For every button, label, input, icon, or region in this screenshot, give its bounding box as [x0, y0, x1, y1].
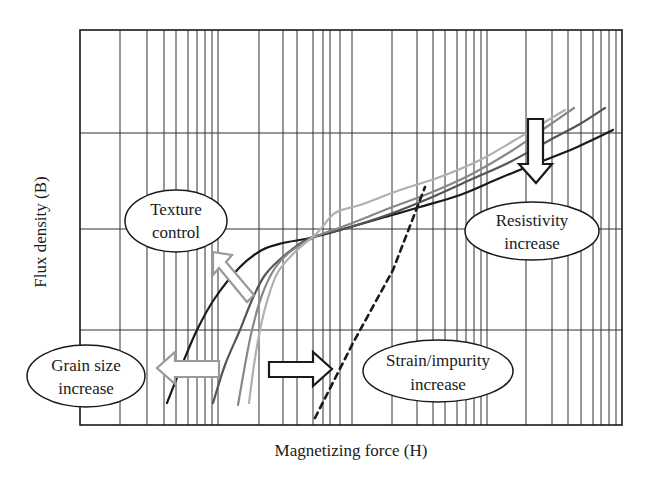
resistivity-label-line2: increase [504, 234, 560, 253]
grain-label-line1: Grain size [51, 356, 120, 375]
resistivity-label-line1: Resistivity [496, 211, 569, 230]
x-axis-label: Magnetizing force (H) [275, 441, 428, 460]
strain-impurity-callout: Strain/impurity increase [363, 340, 513, 402]
grain-label-line2: increase [58, 379, 114, 398]
bh-chart: Texture control Resistivity increase Str… [0, 0, 654, 484]
resistivity-increase-callout: Resistivity increase [465, 202, 599, 260]
y-axis-label: Flux density (B) [31, 176, 50, 287]
texture-control-callout: Texture control [125, 190, 227, 252]
texture-label-line2: control [152, 223, 200, 242]
texture-label-line1: Texture [150, 200, 202, 219]
resistivity-arrow [519, 119, 552, 183]
strain-label-line1: Strain/impurity [386, 351, 490, 370]
strain-label-line2: increase [410, 375, 466, 394]
grain-size-callout: Grain size increase [27, 345, 145, 407]
bh-curve-figure: Texture control Resistivity increase Str… [0, 0, 654, 484]
